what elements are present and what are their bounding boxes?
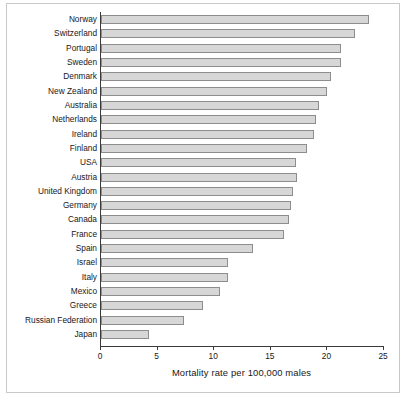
- bar: [101, 58, 341, 67]
- category-label: Australia: [0, 100, 97, 111]
- bar-row: Netherlands: [0, 114, 413, 128]
- bar: [101, 258, 228, 267]
- bar-row: Italy: [0, 272, 413, 286]
- category-label: Israel: [0, 257, 97, 268]
- bar-row: New Zealand: [0, 86, 413, 100]
- bar-row: Norway: [0, 14, 413, 28]
- bar: [101, 29, 355, 38]
- category-label: Sweden: [0, 57, 97, 68]
- category-label: Italy: [0, 272, 97, 283]
- bar-row: Portugal: [0, 43, 413, 57]
- chart-figure: NorwaySwitzerlandPortugalSwedenDenmarkNe…: [0, 0, 413, 400]
- bar-row: Japan: [0, 329, 413, 343]
- category-label: Mexico: [0, 286, 97, 297]
- bar-row: Israel: [0, 257, 413, 271]
- bar: [101, 230, 284, 239]
- bar-row: Ireland: [0, 129, 413, 143]
- category-label: Denmark: [0, 71, 97, 82]
- x-tick-label: 10: [193, 351, 233, 361]
- category-label: France: [0, 229, 97, 240]
- bar: [101, 115, 316, 124]
- bar-row: Sweden: [0, 57, 413, 71]
- bar: [101, 201, 291, 210]
- x-tick-label: 25: [363, 351, 403, 361]
- x-tick-mark: [270, 346, 271, 350]
- x-tick-mark: [157, 346, 158, 350]
- bar: [101, 158, 296, 167]
- bar-row: Finland: [0, 143, 413, 157]
- category-label: United Kingdom: [0, 186, 97, 197]
- x-tick-label: 5: [137, 351, 177, 361]
- bar: [101, 330, 149, 339]
- bar: [101, 144, 307, 153]
- category-label: Switzerland: [0, 28, 97, 39]
- x-tick-label: 20: [306, 351, 346, 361]
- bar-row: Greece: [0, 300, 413, 314]
- category-label: Japan: [0, 329, 97, 340]
- bar: [101, 316, 184, 325]
- bar-row: Austria: [0, 172, 413, 186]
- bar-row: Germany: [0, 200, 413, 214]
- bar: [101, 87, 327, 96]
- category-label: Greece: [0, 300, 97, 311]
- bar-row: Canada: [0, 214, 413, 228]
- x-tick-label: 0: [80, 351, 120, 361]
- x-axis-line: [100, 346, 383, 347]
- category-label: Portugal: [0, 43, 97, 54]
- category-label: Norway: [0, 14, 97, 25]
- category-label: Netherlands: [0, 114, 97, 125]
- bar-row: France: [0, 229, 413, 243]
- category-label: Russian Federation: [0, 315, 97, 326]
- bar: [101, 215, 289, 224]
- bar: [101, 301, 203, 310]
- category-label: New Zealand: [0, 86, 97, 97]
- plot-area: NorwaySwitzerlandPortugalSwedenDenmarkNe…: [0, 0, 413, 400]
- x-tick-mark: [326, 346, 327, 350]
- bar-row: Mexico: [0, 286, 413, 300]
- x-axis-title: Mortality rate per 100,000 males: [100, 367, 383, 378]
- category-label: USA: [0, 157, 97, 168]
- bar-row: Russian Federation: [0, 315, 413, 329]
- bar-row: United Kingdom: [0, 186, 413, 200]
- x-tick-mark: [100, 346, 101, 350]
- category-label: Ireland: [0, 129, 97, 140]
- bar-row: Switzerland: [0, 28, 413, 42]
- bar: [101, 273, 228, 282]
- x-tick-mark: [213, 346, 214, 350]
- bar: [101, 44, 341, 53]
- category-label: Spain: [0, 243, 97, 254]
- category-label: Canada: [0, 214, 97, 225]
- bar: [101, 287, 220, 296]
- category-label: Finland: [0, 143, 97, 154]
- bar-row: USA: [0, 157, 413, 171]
- category-label: Germany: [0, 200, 97, 211]
- bar: [101, 173, 297, 182]
- bar-row: Spain: [0, 243, 413, 257]
- x-tick-label: 15: [250, 351, 290, 361]
- bar: [101, 187, 293, 196]
- bar: [101, 72, 331, 81]
- bar: [101, 101, 319, 110]
- category-label: Austria: [0, 172, 97, 183]
- x-tick-mark: [383, 346, 384, 350]
- bar-row: Australia: [0, 100, 413, 114]
- bar-row: Denmark: [0, 71, 413, 85]
- bar: [101, 130, 314, 139]
- bar: [101, 244, 253, 253]
- bar: [101, 15, 369, 24]
- y-axis-line: [100, 12, 101, 346]
